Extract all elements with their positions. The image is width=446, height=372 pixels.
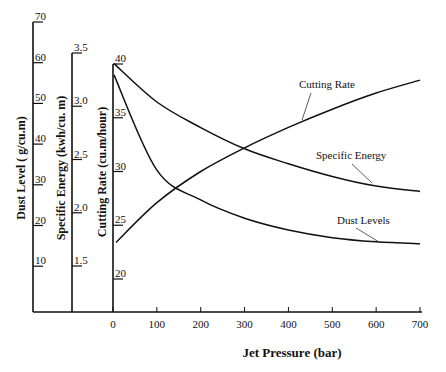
energy-tick-label: 1.5 xyxy=(74,254,88,266)
dust-tick-label: 20 xyxy=(35,214,47,226)
x-tick-label: 0 xyxy=(110,318,116,330)
cutting-rate-label: Cutting Rate xyxy=(299,78,355,90)
energy-tick-label: 3.0 xyxy=(74,94,88,106)
energy-axis-title: Specific Energy (kwh/cu. m) xyxy=(54,96,68,241)
x-axis-title: Jet Pressure (bar) xyxy=(242,345,341,360)
x-tick-label: 500 xyxy=(324,318,341,330)
x-tick-label: 600 xyxy=(368,318,385,330)
rate-axis-title: Cutting Rate (cu.m/hour) xyxy=(95,107,109,237)
x-tick-label: 100 xyxy=(149,318,166,330)
energy-tick-label: 3.5 xyxy=(74,41,88,53)
energy-tick-label: 2.5 xyxy=(74,148,88,160)
rate-tick-label: 35 xyxy=(115,106,127,118)
cutting-rate-leader xyxy=(302,93,311,120)
dust-tick-label: 50 xyxy=(35,91,47,103)
dust-tick-label: 40 xyxy=(35,132,47,144)
specific-energy-curve xyxy=(114,64,420,192)
specific-energy-leader xyxy=(352,164,372,183)
specific-energy-label: Specific Energy xyxy=(316,149,387,161)
x-tick-label: 300 xyxy=(236,318,253,330)
rate-tick-label: 30 xyxy=(115,160,127,172)
rate-tick-label: 20 xyxy=(115,267,127,279)
dust-axis-title: Dust Level ( g/cu.m) xyxy=(14,116,28,219)
chart-canvas: 0100200300400500600700102030405060701.52… xyxy=(0,0,446,372)
x-tick-label: 200 xyxy=(192,318,209,330)
rate-tick-label: 40 xyxy=(115,52,127,64)
rate-tick-label: 25 xyxy=(115,213,127,225)
dust-tick-label: 60 xyxy=(35,51,47,63)
dust-tick-label: 10 xyxy=(35,254,47,266)
dust-tick-label: 30 xyxy=(35,173,47,185)
dust-levels-label: Dust Levels xyxy=(337,214,390,226)
axes-group: 0100200300400500600700102030405060701.52… xyxy=(33,10,429,330)
energy-tick-label: 2.0 xyxy=(74,201,88,213)
x-tick-label: 700 xyxy=(412,318,429,330)
x-tick-label: 400 xyxy=(280,318,297,330)
dust-tick-label: 70 xyxy=(35,10,47,22)
